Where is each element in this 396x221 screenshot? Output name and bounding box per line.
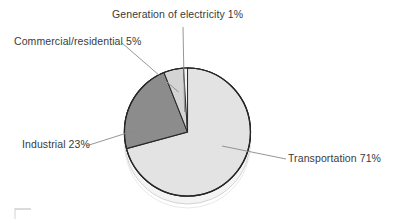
crop-corner-mark: [15, 208, 31, 219]
pie-chart-canvas: [0, 0, 396, 221]
pie-label-generation-of-electricity: Generation of electricity 1%: [112, 8, 243, 20]
pie-label-industrial: Industrial 23%: [22, 138, 90, 150]
pie-label-commercial-residential: Commercial/residential 5%: [14, 35, 141, 47]
pie-label-transportation: Transportation 71%: [288, 152, 381, 164]
pie-chart-figure: Generation of electricity 1% Commercial/…: [0, 0, 396, 221]
